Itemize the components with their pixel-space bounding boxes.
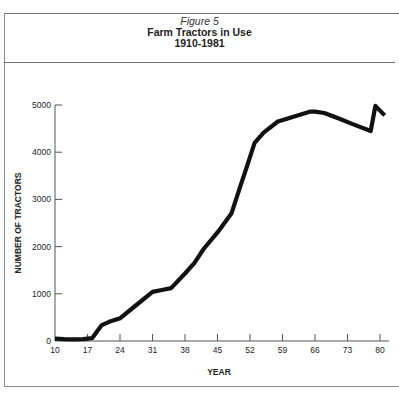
x-tick-label: 45 xyxy=(213,345,223,355)
y-tick-label: 5000 xyxy=(32,100,51,110)
x-tick-label: 73 xyxy=(343,345,353,355)
tractors-line xyxy=(55,106,385,339)
y-tick-label: 3000 xyxy=(32,194,51,204)
x-tick-label: 38 xyxy=(180,345,190,355)
x-tick-label: 59 xyxy=(278,345,288,355)
x-axis: 1017243138455259667380 xyxy=(50,334,389,355)
x-tick-label: 31 xyxy=(148,345,158,355)
y-tick-label: 2000 xyxy=(32,242,51,252)
x-tick-label: 52 xyxy=(245,345,255,355)
y-tick-label: 1000 xyxy=(32,289,51,299)
y-axis: 010002000300040005000 xyxy=(32,100,62,346)
x-tick-label: 66 xyxy=(310,345,320,355)
x-tick-label: 10 xyxy=(50,345,60,355)
y-axis-title: NUMBER OF TRACTORS xyxy=(13,172,23,273)
x-tick-label: 80 xyxy=(375,345,385,355)
x-tick-label: 24 xyxy=(115,345,125,355)
x-axis-title: YEAR xyxy=(207,367,231,377)
x-tick-label: 17 xyxy=(83,345,93,355)
y-tick-label: 4000 xyxy=(32,147,51,157)
